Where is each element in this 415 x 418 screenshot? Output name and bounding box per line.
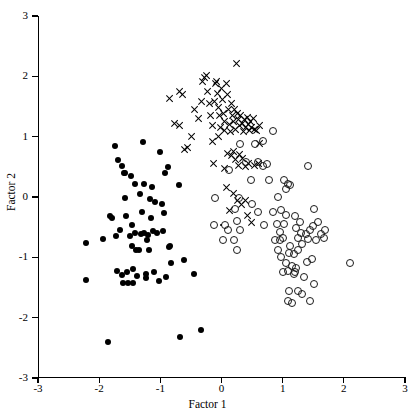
data-point-open-circle (288, 299, 296, 307)
x-tick-label: 1 (270, 383, 296, 394)
data-point-open-circle (259, 162, 267, 170)
data-point-x (183, 143, 192, 152)
data-point-x (202, 71, 211, 80)
y-axis-label: Factor 2 (5, 157, 17, 227)
x-tick-label: -3 (25, 383, 51, 394)
data-point-filled-circle (123, 213, 129, 219)
data-point-x (214, 132, 223, 141)
data-point-open-circle (235, 194, 243, 202)
data-point-filled-circle (177, 334, 183, 340)
data-point-open-circle (242, 158, 250, 166)
data-point-x (165, 94, 174, 103)
data-point-open-circle (236, 140, 244, 148)
x-tick-label: -2 (86, 383, 112, 394)
x-tick-label: 0 (209, 383, 235, 394)
data-point-filled-circle (115, 157, 121, 163)
data-point-open-circle (233, 246, 241, 254)
data-point-filled-circle (161, 210, 167, 216)
data-point-filled-circle (122, 170, 128, 176)
data-point-filled-circle (181, 257, 187, 263)
data-point-x (204, 87, 213, 96)
data-point-filled-circle (109, 215, 115, 221)
y-tick-label: -3 (6, 372, 28, 383)
data-point-filled-circle (159, 201, 165, 207)
x-axis-label: Factor 1 (0, 398, 415, 410)
data-point-open-circle (279, 268, 287, 276)
y-tick-label: -1 (6, 251, 28, 262)
data-point-filled-circle (83, 240, 89, 246)
data-point-x (223, 90, 232, 99)
data-point-filled-circle (83, 277, 89, 283)
data-point-open-circle (300, 273, 308, 281)
data-point-filled-circle (128, 173, 134, 179)
data-point-x (194, 114, 203, 123)
data-point-filled-circle (176, 182, 182, 188)
data-point-open-circle (274, 246, 282, 254)
scatter-plot-figure: -3-2-10123 -3-2-10123 Factor 2 Factor 1 (0, 0, 415, 418)
data-point-open-circle (306, 297, 314, 305)
data-point-x (209, 159, 218, 168)
x-tick-label: -1 (147, 383, 173, 394)
data-point-x (248, 218, 257, 227)
data-point-x (232, 59, 241, 68)
data-point-open-circle (251, 140, 259, 148)
data-point-open-circle (233, 217, 241, 225)
data-point-open-circle (280, 220, 288, 228)
data-point-open-circle (274, 193, 282, 201)
x-tick-label: 2 (331, 383, 357, 394)
data-point-filled-circle (139, 209, 145, 215)
x-tick-label: 3 (392, 383, 415, 394)
data-point-x (190, 105, 199, 114)
plot-area (38, 16, 405, 378)
data-point-x (175, 121, 184, 130)
data-point-open-circle (286, 181, 294, 189)
y-tick-label: 3 (6, 10, 28, 21)
data-point-x (178, 90, 187, 99)
data-point-open-circle (231, 205, 239, 213)
data-point-filled-circle (136, 247, 142, 253)
data-point-filled-circle (122, 195, 128, 201)
data-point-open-circle (304, 162, 312, 170)
data-point-open-circle (298, 290, 306, 298)
data-point-filled-circle (132, 181, 138, 187)
data-point-filled-circle (129, 222, 135, 228)
data-point-open-circle (276, 228, 284, 236)
y-tick-label: 2 (6, 70, 28, 81)
data-point-filled-circle (191, 271, 197, 277)
data-point-x (222, 79, 231, 88)
data-point-open-circle (247, 176, 255, 184)
y-tick-label: -2 (6, 312, 28, 323)
data-point-filled-circle (113, 233, 119, 239)
y-tick-label: 1 (6, 131, 28, 142)
data-point-open-circle (346, 259, 354, 267)
data-point-x (188, 132, 197, 141)
data-point-open-circle (285, 287, 293, 295)
data-point-x (206, 111, 215, 120)
data-point-filled-circle (119, 163, 125, 169)
data-point-filled-circle (165, 164, 171, 170)
data-point-open-circle (225, 166, 233, 174)
data-point-filled-circle (151, 269, 157, 275)
data-point-open-circle (224, 226, 232, 234)
data-point-x (255, 121, 264, 130)
data-point-filled-circle (160, 228, 166, 234)
data-point-open-circle (236, 226, 244, 234)
